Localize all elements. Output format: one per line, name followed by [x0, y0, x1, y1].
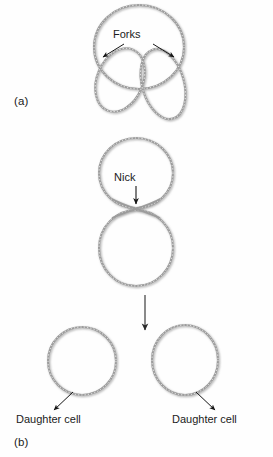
fork-arrow-left: [103, 44, 124, 57]
nick-label: Nick: [114, 172, 135, 183]
panel-a-letter: (a): [14, 96, 28, 108]
dna-replication-diagram: [0, 0, 273, 457]
forks-label: Forks: [113, 29, 141, 40]
daughter-arrow-right: [196, 392, 215, 410]
panel-b-nicked-chromosomes: [99, 138, 173, 286]
daughter-chromosomes: [48, 325, 218, 395]
daughter-arrow-left: [54, 392, 73, 410]
panel-a-theta-structure: [86, 5, 193, 124]
fork-arrows: [103, 44, 174, 57]
panel-b-letter: (b): [14, 437, 28, 449]
fork-arrow-right: [153, 44, 174, 57]
daughter-cell-left-label: Daughter cell: [16, 414, 81, 425]
theta-loop-left: [86, 41, 154, 120]
theta-outer-circle: [94, 5, 184, 89]
figure-canvas: Forks Nick Daughter cell Daughter cell (…: [0, 0, 273, 457]
daughter-cell-right-label: Daughter cell: [172, 414, 237, 425]
